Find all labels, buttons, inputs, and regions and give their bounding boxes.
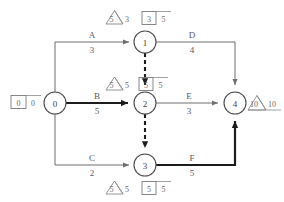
node-1[interactable]: 1 [134,31,156,53]
annotation-node-3: 5 5 5 5 [106,181,171,195]
annotation-node-0-left: 0 [17,99,21,108]
activity-c-duration: 2 [90,168,95,178]
node-3-label: 3 [143,161,148,171]
activity-d-name: D [189,30,196,40]
network-diagram-canvas: 0 0 5 3 3 5 5 5 5 5 [0,0,284,202]
activity-f-duration: 5 [190,168,195,178]
activity-e-name: E [186,91,192,101]
activity-c-name: C [89,153,95,163]
edge-activity-f [156,121,235,165]
annotation-node-3-box-right: 5 [162,185,166,194]
node-2[interactable]: 2 [134,92,156,114]
annotation-node-1-box-right: 5 [162,15,166,24]
activity-e-duration: 3 [187,106,192,116]
node-4[interactable]: 4 [224,92,246,114]
annotation-node-1: 5 3 3 5 [106,11,171,25]
annotation-node-1-triangle-right: 3 [125,15,129,24]
node-4-label: 4 [233,99,238,109]
annotation-node-2-box-left: 5 [144,81,148,90]
annotation-node-3-box-left: 5 [147,185,151,194]
node-0-label: 0 [53,99,58,109]
annotation-node-4-triangle-right: 10 [268,100,276,109]
network-diagram-svg: 0 0 5 3 3 5 5 5 5 5 [0,0,284,202]
edge-activity-d [156,42,235,85]
annotation-node-2-triangle-left: 5 [110,81,114,90]
activity-a-duration: 3 [90,45,95,55]
node-3[interactable]: 3 [134,154,156,176]
activity-d-duration: 4 [190,45,195,55]
activity-f-name: F [189,153,194,163]
activity-a-name: A [89,30,96,40]
annotation-node-0: 0 0 [11,96,41,109]
annotation-node-2-triangle-right: 5 [125,81,129,90]
node-1-label: 1 [143,38,148,48]
annotation-node-4: 10 10 [248,96,281,111]
activity-b-duration: 5 [95,106,100,116]
annotation-node-1-triangle-left: 5 [110,15,114,24]
annotation-node-0-right: 0 [31,99,35,108]
annotation-node-1-box-left: 3 [147,15,151,24]
annotation-node-3-triangle-left: 5 [110,185,114,194]
annotation-node-4-triangle-left: 10 [250,100,258,109]
annotation-node-2: 5 5 5 5 [106,77,168,91]
activity-b-name: B [94,91,100,101]
node-0[interactable]: 0 [44,92,66,114]
annotation-node-2-box-right: 5 [159,81,163,90]
annotation-node-3-triangle-right: 5 [125,185,129,194]
node-2-label: 2 [143,99,148,109]
